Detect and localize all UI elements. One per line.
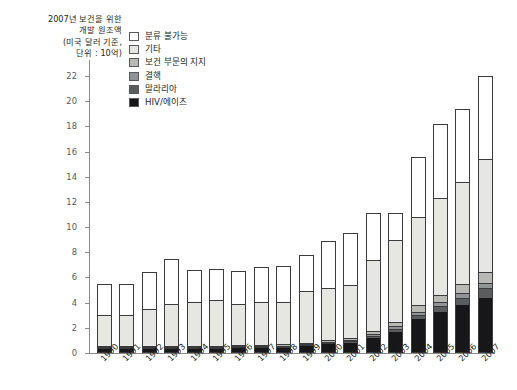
x-axis-label: 1995 <box>211 342 232 363</box>
x-axis-label: 1990 <box>99 342 120 363</box>
x-axis-label: 2007 <box>480 342 501 363</box>
x-axis-label: 1991 <box>121 342 142 363</box>
x-axis-label: 1993 <box>166 342 187 363</box>
x-axis-label: 2000 <box>323 342 344 363</box>
x-axis-label: 1992 <box>144 342 165 363</box>
chart-figure: 2007년 보건을 위한 개발 원조액 (미국 달러 기준, 단위 : 10억)… <box>0 0 517 390</box>
x-axis-label: 2005 <box>435 342 456 363</box>
x-axis-label: 2001 <box>345 342 366 363</box>
x-axis-label: 1996 <box>233 342 254 363</box>
x-axis-label: 1997 <box>256 342 277 363</box>
x-axis-label: 1999 <box>301 342 322 363</box>
x-axis-label: 2003 <box>390 342 411 363</box>
x-axis-label: 2004 <box>413 342 434 363</box>
x-axis-labels: 1990199119921993199419951996199719981999… <box>0 0 517 390</box>
x-axis-label: 2006 <box>457 342 478 363</box>
x-axis-label: 2002 <box>368 342 389 363</box>
x-axis-label: 1994 <box>189 342 210 363</box>
x-axis-label: 1998 <box>278 342 299 363</box>
